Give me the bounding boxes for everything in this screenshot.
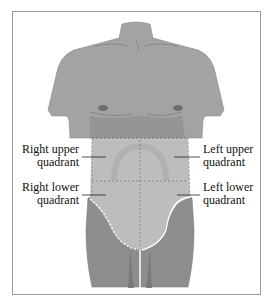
label-right-lower-quadrant: Right lower quadrant [18,181,79,207]
right-nipple [98,105,108,111]
label-line: quadrant [18,194,79,207]
label-line: quadrant [203,156,263,169]
label-line: quadrant [18,156,79,169]
label-right-upper-quadrant: Right upper quadrant [18,143,79,169]
left-nipple [173,105,183,111]
label-left-upper-quadrant: Left upper quadrant [203,143,263,169]
label-left-lower-quadrant: Left lower quadrant [203,181,263,207]
label-line: quadrant [203,194,263,207]
